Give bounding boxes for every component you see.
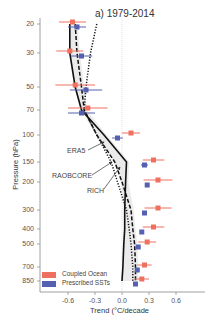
annotation-raobcore: RAOBCORE (52, 172, 92, 179)
legend-label-prescribed: Prescribed SSTs (62, 279, 110, 286)
y-tick-label: 200 (6, 178, 34, 185)
y-tick-label: 500 (6, 240, 34, 247)
legend-prescribed-ssts: Prescribed SSTs (62, 279, 110, 286)
annotation-era5: ERA5 (67, 147, 85, 154)
marker-prescribed (79, 54, 84, 59)
y-tick-label: 700 (6, 263, 34, 270)
marker-prescribed (145, 183, 150, 188)
marker-prescribed (79, 111, 84, 116)
x-axis-label: Trend (°C/decade (90, 306, 149, 315)
chart-title: a) 1979-2014 (95, 8, 155, 19)
marker-coupled (70, 20, 75, 25)
chart-container: a) 1979-2014 Pressure (hPa) Trend (°C/de… (0, 0, 215, 327)
marker-coupled (85, 106, 90, 111)
y-tick-label: 100 (6, 131, 34, 138)
y-tick-label: 150 (6, 158, 34, 165)
legend-coupled-ocean: Coupled Ocean (62, 270, 107, 277)
marker-prescribed (84, 88, 89, 93)
y-tick-label: 70 (6, 106, 34, 113)
marker-coupled (73, 83, 78, 88)
marker-coupled (151, 158, 156, 163)
y-tick-label: 300 (6, 206, 34, 213)
marker-prescribed (75, 25, 80, 30)
y-tick-label: 30 (6, 49, 34, 56)
marker-prescribed (115, 136, 120, 141)
y-tick-label: 850 (6, 277, 34, 284)
marker-prescribed (136, 245, 141, 250)
marker-coupled (151, 225, 156, 230)
legend-label-coupled: Coupled Ocean (62, 270, 107, 277)
marker-coupled (129, 131, 134, 136)
y-tick-label: 400 (6, 225, 34, 232)
marker-coupled (142, 263, 147, 268)
x-tick-label: 0.0 (110, 297, 134, 304)
x-tick-label: -0.6 (56, 297, 80, 304)
x-tick-label: -0.3 (83, 297, 107, 304)
marker-coupled (156, 178, 161, 183)
x-tick-label: 0.6 (164, 297, 188, 304)
marker-coupled (145, 240, 150, 245)
marker-coupled (67, 49, 72, 54)
marker-prescribed (142, 211, 147, 216)
y-tick-label: 20 (6, 20, 34, 27)
legend-swatch-prescribed (42, 281, 56, 287)
annotation-rich: RICH (87, 187, 104, 194)
marker-coupled (139, 277, 144, 282)
marker-prescribed (139, 230, 144, 235)
marker-coupled (156, 206, 161, 211)
legend-swatch-coupled (42, 272, 56, 278)
marker-prescribed (135, 268, 140, 273)
marker-prescribed (142, 163, 147, 168)
marker-prescribed (133, 282, 138, 287)
y-tick-label: 50 (6, 83, 34, 90)
x-tick-label: 0.3 (137, 297, 161, 304)
